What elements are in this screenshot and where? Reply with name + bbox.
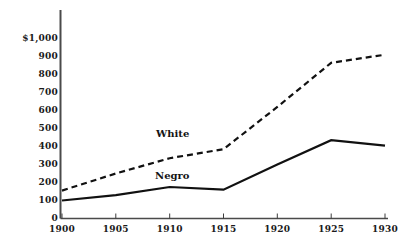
y-tick-label-800: 800 <box>10 69 58 79</box>
y-tick-label-500: 500 <box>10 123 58 133</box>
y-tick-label-700: 700 <box>10 87 58 97</box>
x-tick-label-1930: 1930 <box>365 224 405 234</box>
line-chart-plot <box>0 0 413 251</box>
y-tick-label-200: 200 <box>10 177 58 187</box>
series-line-negro <box>62 140 385 200</box>
y-tick-label-400: 400 <box>10 141 58 151</box>
x-tick-label-1925: 1925 <box>311 224 351 234</box>
y-tick-label-100: 100 <box>10 195 58 205</box>
series-line-white <box>62 55 385 191</box>
chart-container: $1,000 900 800 700 600 500 400 300 200 1… <box>0 0 413 251</box>
x-tick-label-1900: 1900 <box>42 224 82 234</box>
series-annotation-white: White <box>156 128 189 139</box>
y-tick-label-0: 0 <box>10 213 58 223</box>
y-tick-label-1000: $1,000 <box>10 33 58 43</box>
y-tick-label-300: 300 <box>10 159 58 169</box>
x-tick-label-1905: 1905 <box>96 224 136 234</box>
y-tick-label-600: 600 <box>10 105 58 115</box>
series-annotation-negro: Negro <box>155 170 189 181</box>
x-tick-label-1920: 1920 <box>257 224 297 234</box>
x-tick-label-1915: 1915 <box>204 224 244 234</box>
x-tick-label-1910: 1910 <box>150 224 190 234</box>
y-tick-label-900: 900 <box>10 51 58 61</box>
